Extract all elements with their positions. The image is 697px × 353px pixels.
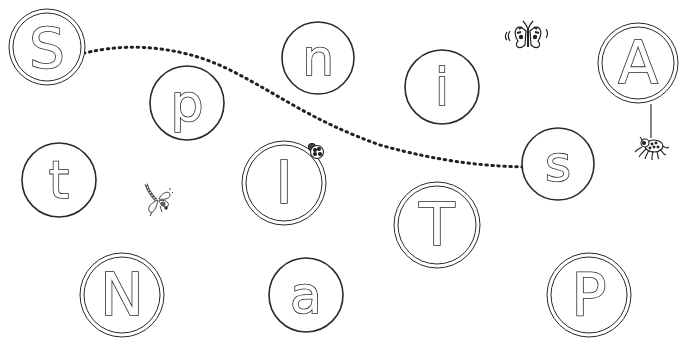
letter-circle-upper-a: A — [598, 23, 678, 103]
letter-circle-lower-n: n — [282, 22, 354, 94]
letter-glyph: T — [418, 191, 455, 259]
letter-glyph: a — [290, 265, 322, 325]
letter-glyph: N — [100, 261, 143, 329]
letter-circle-upper-n: N — [80, 253, 164, 337]
butterfly-icon — [506, 21, 548, 48]
letter-glyph: t — [49, 150, 69, 210]
letter-circle-lower-t: t — [22, 143, 96, 217]
letter-glyph: S — [29, 15, 65, 80]
letter-glyph: p — [170, 73, 203, 133]
letter-circles: SpniAtITsNaP — [9, 9, 678, 337]
letter-glyph: I — [275, 149, 292, 217]
letter-circle-lower-p: p — [150, 66, 224, 140]
letter-glyph: i — [435, 57, 449, 117]
letter-circle-lower-s: s — [522, 128, 594, 200]
letter-circle-lower-a: a — [269, 258, 343, 332]
letter-glyph: s — [545, 135, 571, 193]
letter-circle-upper-t: T — [394, 182, 480, 268]
letter-glyph: P — [572, 261, 607, 329]
worksheet-canvas: SpniAtITsNaP — [0, 0, 697, 353]
letter-glyph: n — [302, 29, 334, 87]
letter-circle-upper-p: P — [547, 253, 631, 337]
spider-icon — [635, 104, 669, 160]
letter-circle-lower-i: i — [405, 50, 479, 124]
letter-glyph: A — [618, 29, 658, 97]
letter-circle-upper-s: S — [9, 9, 85, 85]
dragonfly-icon — [146, 184, 173, 216]
